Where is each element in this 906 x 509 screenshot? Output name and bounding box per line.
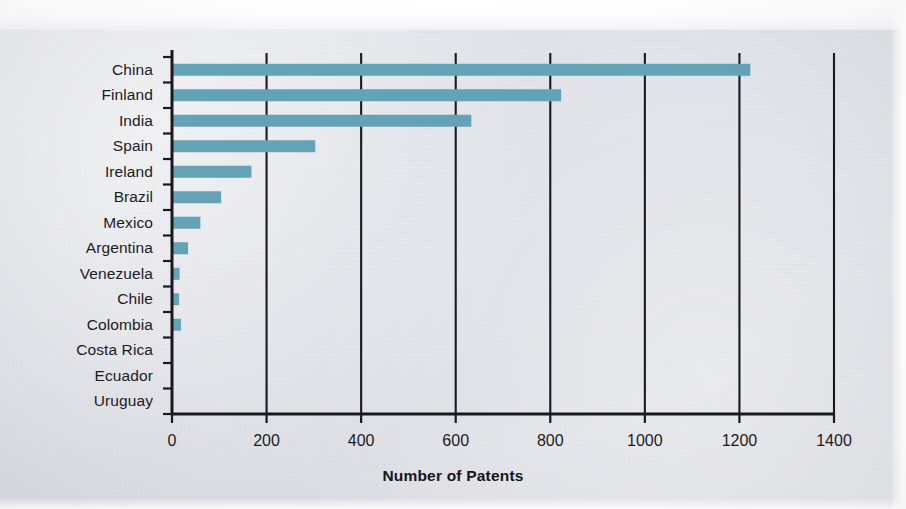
bar-china [172, 64, 750, 76]
bar-ireland [172, 166, 251, 178]
x-tick-label-800: 800 [537, 432, 564, 450]
x-axis-title: Number of Patents [0, 467, 906, 485]
x-tick-label-200: 200 [253, 432, 280, 450]
x-tick-label-1200: 1200 [722, 432, 758, 450]
x-tick-label-1000: 1000 [627, 432, 663, 450]
screenshot-page: ChinaFinlandIndiaSpainIrelandBrazilMexic… [0, 0, 906, 509]
x-tick-label-400: 400 [348, 432, 375, 450]
bar-series [172, 64, 750, 331]
bar-finland [172, 89, 561, 101]
bar-india [172, 115, 471, 127]
x-tick-label-1400: 1400 [816, 432, 852, 450]
x-tick-label-600: 600 [442, 432, 469, 450]
horizontal-bar-chart: ChinaFinlandIndiaSpainIrelandBrazilMexic… [0, 0, 906, 509]
bar-brazil [172, 191, 221, 203]
x-gridlines [267, 53, 834, 414]
axis-lines [171, 50, 834, 414]
x-tick-label-0: 0 [168, 432, 177, 450]
bar-argentina [172, 242, 188, 254]
bar-mexico [172, 217, 200, 229]
bar-spain [172, 140, 315, 152]
